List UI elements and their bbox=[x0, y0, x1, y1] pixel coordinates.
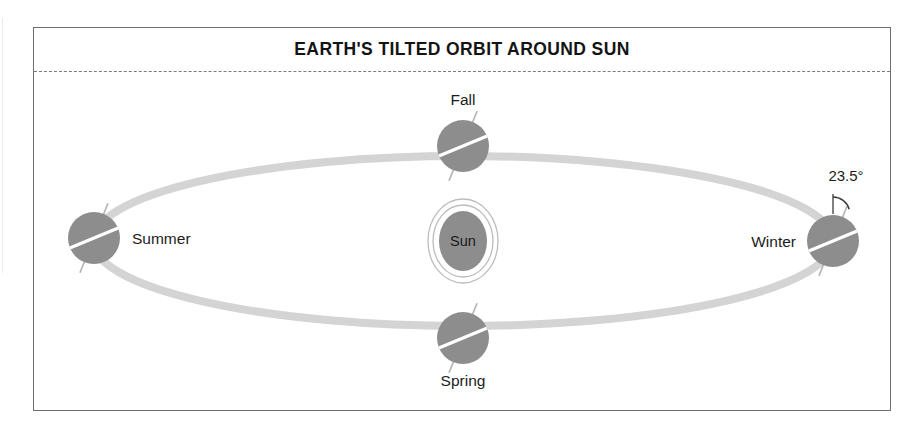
earth-summer: Summer bbox=[58, 203, 191, 272]
tilt-angle-label: 23.5° bbox=[828, 167, 863, 184]
sun-label: Sun bbox=[450, 233, 476, 249]
earth-winter-label: Winter bbox=[751, 233, 796, 250]
earth-spring: Spring bbox=[427, 303, 499, 389]
earth-winter: Winter 23.5° bbox=[751, 167, 869, 276]
earth-summer-label: Summer bbox=[132, 230, 191, 247]
figure-frame: EARTH'S TILTED ORBIT AROUND SUN Sun bbox=[33, 27, 891, 411]
orbit-diagram-svg: Sun Summer Fall bbox=[34, 28, 892, 412]
sun-body: Sun bbox=[428, 199, 498, 283]
earth-fall: Fall bbox=[427, 91, 499, 181]
earth-spring-label: Spring bbox=[441, 372, 486, 389]
diagram-stage: EARTH'S TILTED ORBIT AROUND SUN Sun bbox=[0, 0, 920, 437]
earth-fall-label: Fall bbox=[451, 91, 476, 108]
page-edge-mark bbox=[2, 18, 3, 273]
